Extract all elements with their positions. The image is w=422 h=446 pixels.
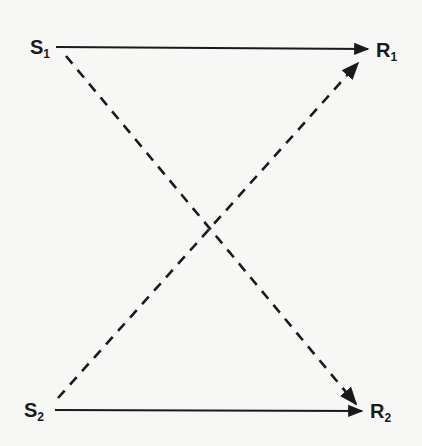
node-s2-base: S	[24, 399, 37, 421]
node-r2: R2	[370, 401, 391, 424]
node-r2-sub: 2	[384, 411, 391, 425]
node-s2: S2	[24, 400, 44, 423]
node-s1: S1	[30, 37, 50, 60]
edge-s2-r2	[55, 410, 362, 411]
diagram-canvas	[0, 0, 422, 446]
node-s1-base: S	[30, 36, 43, 58]
node-r1-base: R	[376, 39, 390, 61]
node-s2-sub: 2	[37, 410, 44, 424]
node-r1-sub: 1	[390, 50, 397, 64]
edge-s1-r1	[56, 47, 368, 49]
node-r1: R1	[376, 40, 397, 63]
node-s1-sub: 1	[43, 47, 50, 61]
edge-s2-r1-dashed	[58, 63, 358, 398]
edge-s1-r2-dashed	[66, 56, 356, 404]
node-r2-base: R	[370, 400, 384, 422]
